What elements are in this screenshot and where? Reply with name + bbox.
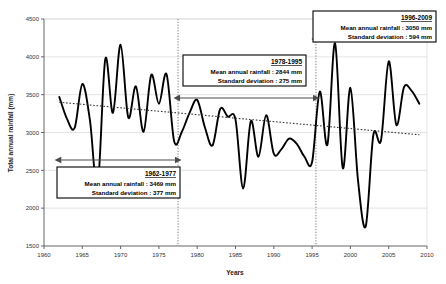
x-tick-label: 2005 — [382, 252, 396, 258]
x-tick-label: 1970 — [114, 252, 128, 258]
period-sd-label: Standard deviation : 275 mm — [218, 77, 303, 84]
x-tick-label: 1975 — [152, 252, 166, 258]
y-tick-label: 2000 — [26, 205, 40, 211]
y-tick-label: 2500 — [26, 168, 40, 174]
x-axis-title: Years — [226, 269, 244, 276]
period-label: 1996-2009 — [401, 14, 432, 21]
y-tick-label: 1500 — [26, 243, 40, 249]
x-tick-label: 1995 — [305, 252, 319, 258]
y-tick-label: 4500 — [26, 16, 40, 22]
y-tick-label: 4000 — [26, 54, 40, 60]
rainfall-chart: 1500200025003000350040004500 19601965197… — [0, 0, 446, 284]
period-label: 1962-1977 — [145, 170, 176, 177]
x-tick-label: 1990 — [267, 252, 281, 258]
period-box-1978-1995: 1978-1995Mean annual rainfall : 2844 mmS… — [183, 55, 306, 86]
period-mean-label: Mean annual rainfall : 3469 mm — [85, 180, 177, 187]
period-label: 1978-1995 — [271, 58, 302, 65]
x-tick-label: 1965 — [76, 252, 90, 258]
x-tick-label: 1960 — [37, 252, 51, 258]
y-axis-title: Total annual rainfall (mm) — [7, 94, 15, 173]
y-tick-label: 3500 — [26, 92, 40, 98]
period-sd-label: Standard deviation : 594 mm — [348, 33, 433, 40]
period-mean-label: Mean annual rainfall : 3050 mm — [341, 24, 433, 31]
period-box-1996-2009: 1996-2009Mean annual rainfall : 3050 mmS… — [313, 11, 436, 42]
x-tick-label: 2010 — [420, 252, 434, 258]
x-tick-label: 1985 — [229, 252, 243, 258]
x-tick-label: 1980 — [191, 252, 205, 258]
period-mean-label: Mean annual rainfall : 2844 mm — [211, 68, 303, 75]
chart-canvas: 1500200025003000350040004500 19601965197… — [0, 0, 446, 284]
period-box-1962-1977: 1962-1977Mean annual rainfall : 3469 mmS… — [57, 167, 180, 198]
period-sd-label: Standard deviation : 377 mm — [92, 189, 177, 196]
x-tick-label: 2000 — [344, 252, 358, 258]
y-tick-label: 3000 — [26, 130, 40, 136]
